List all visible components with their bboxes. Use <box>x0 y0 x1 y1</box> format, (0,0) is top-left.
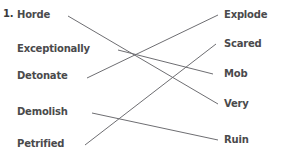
question-number: 1. <box>3 8 13 19</box>
line-demolish-ruin[interactable] <box>92 113 218 140</box>
line-petrified-scared[interactable] <box>85 44 216 145</box>
line-exceptionally-mob[interactable] <box>118 50 213 74</box>
right-word-explode[interactable]: Explode <box>224 9 267 20</box>
left-word-demolish[interactable]: Demolish <box>17 106 68 117</box>
right-word-very[interactable]: Very <box>224 98 249 109</box>
right-word-mob[interactable]: Mob <box>224 68 247 79</box>
left-word-detonate[interactable]: Detonate <box>17 70 68 81</box>
right-word-scared[interactable]: Scared <box>224 38 262 49</box>
line-horde-very[interactable] <box>68 16 218 104</box>
left-word-exceptionally[interactable]: Exceptionally <box>17 43 90 54</box>
left-word-petrified[interactable]: Petrified <box>17 138 64 149</box>
matching-exercise-page: 1. HordeExceptionallyDetonateDemolishPet… <box>0 0 290 163</box>
line-detonate-explode[interactable] <box>87 15 218 78</box>
right-word-ruin[interactable]: Ruin <box>224 134 249 145</box>
left-word-horde[interactable]: Horde <box>17 9 50 20</box>
